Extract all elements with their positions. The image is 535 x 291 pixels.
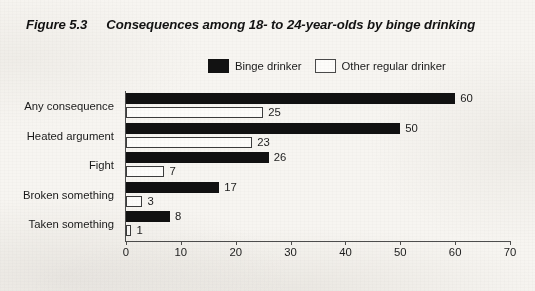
x-axis-tick (510, 241, 511, 245)
bar-other (126, 225, 131, 236)
category-axis-labels: Any consequence Heated argument Fight Br… (0, 92, 120, 240)
y-axis-line (125, 91, 126, 241)
x-axis-tick-label: 40 (339, 246, 352, 258)
bar-value-other: 7 (169, 166, 175, 177)
x-axis-tick (455, 241, 456, 245)
bar-binge (126, 123, 400, 134)
bar-other (126, 137, 252, 148)
bar-value-binge: 8 (175, 211, 181, 222)
x-axis-tick (345, 241, 346, 245)
category-label: Heated argument (0, 122, 120, 152)
x-axis-tick-label: 0 (123, 246, 129, 258)
bar-value-other: 1 (136, 225, 142, 236)
bar-value-other: 23 (257, 137, 270, 148)
bars-area: 60 25 50 23 26 7 17 3 8 1 (126, 92, 510, 240)
category-label: Any consequence (0, 92, 120, 122)
x-axis-tick (291, 241, 292, 245)
bar-other (126, 196, 142, 207)
bar-value-binge: 17 (224, 182, 237, 193)
bar-binge (126, 211, 170, 222)
x-axis-tick-label: 60 (449, 246, 462, 258)
bar-value-other: 25 (268, 107, 281, 118)
category-label: Fight (0, 151, 120, 181)
bar-binge (126, 152, 269, 163)
bar-binge (126, 93, 455, 104)
bar-chart: Any consequence Heated argument Fight Br… (0, 0, 535, 291)
bar-value-binge: 26 (274, 152, 287, 163)
bar-group: 17 3 (126, 181, 510, 211)
bar-binge (126, 182, 219, 193)
bar-value-binge: 50 (405, 123, 418, 134)
bar-value-other: 3 (147, 196, 153, 207)
x-axis-tick (236, 241, 237, 245)
bar-group: 50 23 (126, 122, 510, 152)
x-axis-tick-label: 10 (175, 246, 188, 258)
bar-other (126, 166, 164, 177)
x-axis-tick (400, 241, 401, 245)
bar-value-binge: 60 (460, 93, 473, 104)
category-label: Taken something (0, 210, 120, 240)
bar-group: 60 25 (126, 92, 510, 122)
bar-group: 26 7 (126, 151, 510, 181)
x-axis-tick-label: 70 (504, 246, 517, 258)
bar-group: 8 1 (126, 210, 510, 240)
x-axis-tick-label: 20 (229, 246, 242, 258)
x-axis-tick-label: 30 (284, 246, 297, 258)
bar-other (126, 107, 263, 118)
x-axis-line (125, 241, 511, 242)
x-axis-tick (181, 241, 182, 245)
category-label: Broken something (0, 181, 120, 211)
x-axis-tick (126, 241, 127, 245)
x-axis-tick-label: 50 (394, 246, 407, 258)
